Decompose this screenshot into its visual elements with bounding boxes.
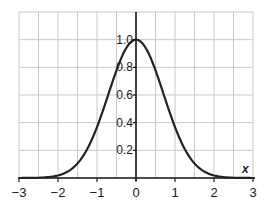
x-tick-label: 2: [210, 185, 217, 200]
y-tick-labels: 0.20.40.60.81.0: [116, 33, 136, 158]
y-tick-label: 0.8: [116, 60, 133, 74]
x-tick-label: 3: [249, 185, 256, 200]
y-tick-label: 0.4: [116, 116, 133, 130]
y-tick-label: 0.2: [116, 143, 133, 157]
y-tick-label: 0.6: [116, 88, 133, 102]
x-tick-label: 1: [171, 185, 178, 200]
bell-curve-chart: −3−2−10123 0.20.40.60.81.0 x: [0, 0, 269, 207]
x-tick-label: −2: [51, 185, 66, 200]
y-tick-label: 1.0: [116, 33, 133, 47]
x-tick-label: 0: [132, 185, 139, 200]
x-tick-label: −3: [12, 185, 27, 200]
x-tick-label: −1: [90, 185, 105, 200]
x-tick-labels: −3−2−10123: [12, 178, 257, 200]
x-axis-label: x: [241, 162, 250, 176]
